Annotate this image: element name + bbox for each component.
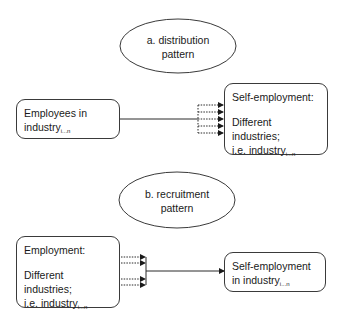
industry-text: in industry (232, 274, 280, 286)
box-a-source-line1: Employees in (24, 106, 112, 120)
box-employees-in-industry: Employees in industryi...n (16, 99, 120, 139)
box-b-target-line1: Self-employment (232, 259, 318, 273)
box-a-target-line1: Self-employment: (232, 90, 320, 104)
oval-a-line2: pattern (130, 47, 226, 61)
dotted-arrows-a (198, 105, 223, 133)
subscript-range: i...n (78, 304, 88, 310)
oval-a-line1: a. distribution (130, 33, 226, 47)
box-b-source-line1: Employment: (24, 243, 112, 257)
oval-label-b: b. recruitment pattern (128, 187, 226, 215)
industry-text: industry (24, 121, 61, 133)
box-a-source-line2: industryi...n (24, 120, 112, 138)
box-b-source-line3: i.e. industryi...n (24, 296, 112, 314)
industry-text: i.e. industry (24, 297, 78, 309)
box-self-employment-different-industries: Self-employment: Different industries; i… (224, 83, 328, 155)
box-employment-different-industries: Employment: Different industries; i.e. i… (16, 236, 120, 308)
subscript-range: i...n (61, 128, 71, 134)
box-self-employment-in-industry: Self-employment in industryi...n (224, 252, 326, 292)
oval-label-a: a. distribution pattern (130, 33, 226, 61)
subscript-range: i...n (280, 281, 290, 287)
oval-b-line2: pattern (128, 201, 226, 215)
box-b-source-line2: Different industries; (24, 268, 112, 296)
box-b-target-line2: in industryi...n (232, 273, 318, 291)
industry-text: i.e. industry (232, 144, 286, 156)
dotted-arrows-b (121, 257, 145, 285)
oval-b-line1: b. recruitment (128, 187, 226, 201)
box-a-target-line2: Different industries; (232, 115, 320, 143)
subscript-range: i...n (286, 151, 296, 157)
box-a-target-line3: i.e. industryi...n (232, 143, 320, 161)
